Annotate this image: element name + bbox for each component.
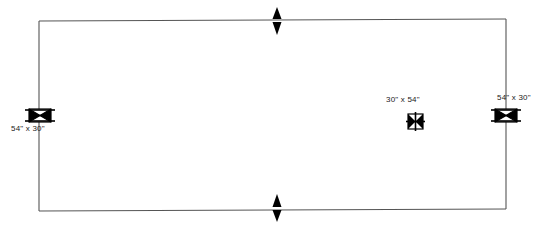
fixture-right-wall-symbol[interactable] bbox=[491, 109, 521, 122]
dimension-label-left-fixture: 54" x 30" bbox=[11, 125, 45, 133]
marker-bottom-wall[interactable] bbox=[273, 194, 282, 222]
floor-plan-drawing bbox=[0, 0, 547, 228]
marker-top-wall[interactable] bbox=[273, 7, 282, 35]
fixture-interior-symbol[interactable] bbox=[406, 112, 425, 131]
dimension-label-interior-fixture: 30" x 54" bbox=[386, 96, 420, 104]
fixture-left-wall-symbol[interactable] bbox=[25, 109, 55, 122]
dimension-label-right-fixture: 54" x 30" bbox=[497, 94, 531, 102]
floor-plan-canvas: 54" x 30" 30" x 54" 54" x 30" bbox=[0, 0, 547, 228]
room-outline bbox=[39, 19, 506, 211]
